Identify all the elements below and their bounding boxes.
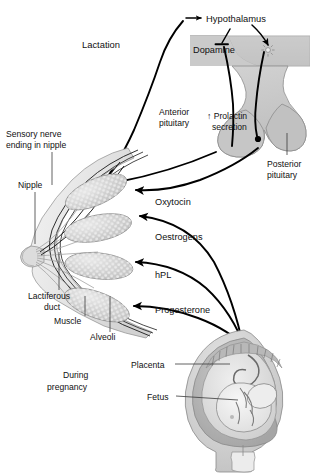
posterior-pituitary-label-line1: Posterior: [267, 159, 302, 169]
lactation-diagram: Hypothalamus Dopamine Anterior pituitary…: [0, 0, 310, 473]
lactiferous-duct-label-line2: duct: [44, 302, 61, 312]
alveoli-label: Alveoli: [90, 332, 115, 342]
anterior-pituitary-label-line2: pituitary: [159, 118, 190, 128]
hormone-label-oestrogens: Oestrogens: [155, 232, 203, 242]
fetus-label: Fetus: [147, 392, 169, 402]
anterior-pituitary-label-line1: Anterior: [159, 107, 189, 117]
sensory-nerve-label-line2: ending in nipple: [6, 140, 66, 150]
hypothalamus-label: Hypothalamus: [206, 13, 266, 24]
posterior-terminal-dot: [255, 136, 261, 142]
dopamine-label: Dopamine: [193, 45, 235, 55]
posterior-pituitary-label-line2: pituitary: [267, 170, 298, 180]
hormone-label-hpl: hPL: [155, 270, 171, 280]
sensory-nerve-label-line1: Sensory nerve: [6, 129, 62, 139]
nipple-label: Nipple: [18, 180, 43, 190]
placenta-label: Placenta: [131, 360, 165, 370]
muscle-label: Muscle: [54, 316, 81, 326]
hormone-label-progesterone: Progesterone: [155, 305, 210, 315]
during-pregnancy-heading-line1: During: [63, 370, 89, 380]
prolactin-label-line2: secretion: [212, 122, 247, 132]
lactation-heading: Lactation: [82, 39, 120, 50]
lactiferous-duct-label-line1: Lactiferous: [28, 291, 70, 301]
prolactin-label-line1: ↑ Prolactin: [207, 111, 247, 121]
hormone-label-oxytocin: Oxytocin: [155, 197, 191, 207]
during-pregnancy-heading-line2: pregnancy: [47, 382, 88, 392]
fetus-detail-dot: [230, 415, 234, 419]
